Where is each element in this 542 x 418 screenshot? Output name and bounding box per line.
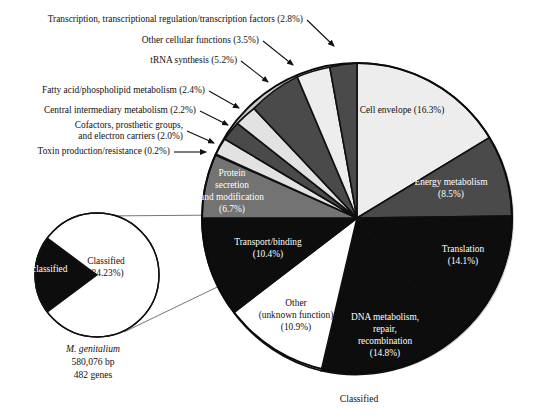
label-protein-line1: Protein xyxy=(218,168,245,178)
label-dna-line1: DNA metabolism, xyxy=(351,312,419,322)
label-other-line2: (unknown function) xyxy=(259,310,334,321)
label-translation-line2: (14.1%) xyxy=(448,256,478,267)
callout-cofactors-line2: and electron carriers (2.0%) xyxy=(78,131,183,142)
label-transport-line1: Transport/binding xyxy=(234,237,302,247)
arrow-cofactors xyxy=(187,131,214,143)
label-energy-metabolism-line2: (8.5%) xyxy=(438,189,464,200)
label-protein-line2: secretion xyxy=(215,180,249,190)
label-cell-envelope: Cell envelope (16.3%) xyxy=(360,105,445,116)
label-dna-line4: (14.8%) xyxy=(370,348,400,359)
functional-category-pie xyxy=(202,63,514,375)
label-dna-line3: recombination xyxy=(358,336,412,346)
label-energy-metabolism-line1: Energy metabolism xyxy=(415,177,489,187)
figure-canvas: Cell envelope (16.3%) Energy metabolism … xyxy=(0,0,542,418)
organism-caption: M. genitalium 580,076 bp 482 genes xyxy=(65,343,120,380)
arrow-central-intermediary xyxy=(200,111,228,125)
callout-fatty-acid: Fatty acid/phospholipid metabolism (2.4%… xyxy=(42,85,205,96)
callout-transcription: Transcription, transcriptional regulatio… xyxy=(48,14,303,25)
label-small-classified-line2: (84.23%) xyxy=(88,268,123,279)
caption-classified: Classified xyxy=(340,393,379,404)
label-other-line1: Other xyxy=(285,298,307,308)
caption-genome-size: 580,076 bp xyxy=(71,356,114,367)
arrow-trna xyxy=(241,61,268,82)
callout-cofactors-line1: Cofactors, prosthetic groups, xyxy=(75,120,183,130)
label-transport-line2: (10.4%) xyxy=(253,249,283,260)
callout-central-intermediary: Central intermediary metabolism (2.2%) xyxy=(44,105,196,116)
label-small-classified-line1: Classified xyxy=(87,256,125,266)
pie-chart-svg: Cell envelope (16.3%) Energy metabolism … xyxy=(0,0,542,418)
label-protein-line4: (6.7%) xyxy=(219,204,245,215)
arrow-other-cellular xyxy=(263,41,293,65)
label-other-line3: (10.9%) xyxy=(281,322,311,333)
label-protein-line3: and modification xyxy=(200,192,264,202)
label-dna-line2: repair, xyxy=(373,324,397,334)
caption-gene-count: 482 genes xyxy=(74,369,113,380)
caption-organism-name: M. genitalium xyxy=(65,343,120,354)
arrow-fatty-acid xyxy=(209,91,239,108)
label-small-unclassified: Unclassified xyxy=(21,264,68,274)
arrow-transcription xyxy=(307,20,334,46)
callout-other-cellular: Other cellular functions (3.5%) xyxy=(142,35,259,46)
label-translation-line1: Translation xyxy=(442,244,485,254)
callout-trna: tRNA synthesis (5.2%) xyxy=(150,55,237,66)
callout-toxin: Toxin production/resistance (0.2%) xyxy=(38,146,170,157)
